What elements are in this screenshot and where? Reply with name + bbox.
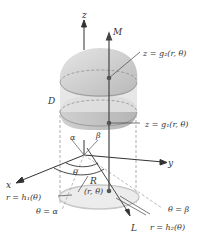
alpha-label: α xyxy=(70,133,76,142)
theta-alpha-label: θ = α xyxy=(36,207,59,216)
point-label: (r, θ) xyxy=(84,187,103,196)
theta-beta-label: θ = β xyxy=(168,205,190,214)
angle-arcs xyxy=(54,163,104,175)
alpha-line xyxy=(72,140,84,155)
lower-surface-label: z = g₁(r, θ) xyxy=(144,120,188,129)
theta-label: θ xyxy=(73,168,78,177)
diagram-canvas: z x y α β θ L M xyxy=(0,0,202,245)
beta-line xyxy=(84,140,98,155)
R-label: R xyxy=(89,176,97,186)
upper-surface xyxy=(60,48,138,97)
D-label: D xyxy=(47,96,55,106)
M-label: M xyxy=(112,27,123,37)
outer-radius-label: r = h₂(θ) xyxy=(150,223,185,232)
x-axis-label: x xyxy=(6,180,11,190)
base-point xyxy=(107,189,112,194)
L-label: L xyxy=(130,223,137,233)
inner-radius-label: r = h₁(θ) xyxy=(6,193,41,202)
z-axis-label: z xyxy=(81,10,87,20)
beta-label: β xyxy=(95,131,101,140)
upper-surface-label: z = g₂(r, θ) xyxy=(142,49,186,58)
y-axis-label: y xyxy=(167,158,174,168)
